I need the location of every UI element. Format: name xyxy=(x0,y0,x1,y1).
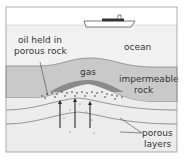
gas-label: gas xyxy=(80,67,96,77)
oil-label-line-2: porous rock xyxy=(14,46,67,56)
impermeable-label-line-1: impermeable xyxy=(119,74,179,84)
oil-label-line-1: oil held in xyxy=(18,35,62,45)
porous-label-line-2: layers xyxy=(144,139,172,149)
porous-label-line-1: porous xyxy=(142,128,173,138)
ocean-label: ocean xyxy=(124,42,151,52)
impermeable-label-line-2: rock xyxy=(134,85,154,95)
oil-gas-trap-diagram: gas oil held in porous rock ocean imperm… xyxy=(0,0,184,163)
